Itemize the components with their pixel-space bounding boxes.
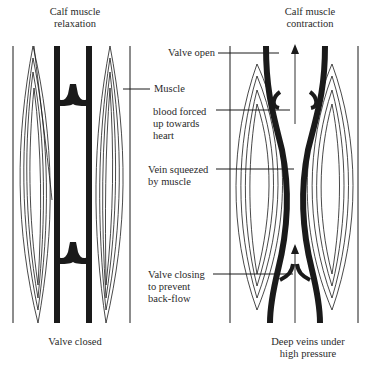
right-panel-title: Calf muscle contraction	[255, 6, 365, 30]
left-muscle-left	[20, 46, 52, 323]
left-muscle-right	[96, 46, 123, 323]
left-panel-title: Calf muscle relaxation	[20, 6, 130, 30]
left-panel-drawing	[13, 46, 150, 323]
label-blood-forced: blood forced up towards heart	[153, 106, 206, 142]
right-panel-drawing	[213, 44, 358, 323]
label-valve-open: Valve open	[168, 47, 215, 59]
label-muscle: Muscle	[154, 83, 185, 95]
vein-valve-diagram: Calf muscle relaxation Calf muscle contr…	[0, 0, 371, 369]
left-upper-valve	[57, 84, 89, 106]
left-panel-caption: Valve closed	[20, 336, 130, 348]
left-lower-valve	[57, 242, 89, 264]
label-valve-closing: Valve closing to prevent back-flow	[148, 269, 205, 305]
label-vein-squeezed: Vein squeezed by muscle	[148, 164, 208, 188]
right-panel-caption: Deep veins under high pressure	[248, 336, 368, 360]
